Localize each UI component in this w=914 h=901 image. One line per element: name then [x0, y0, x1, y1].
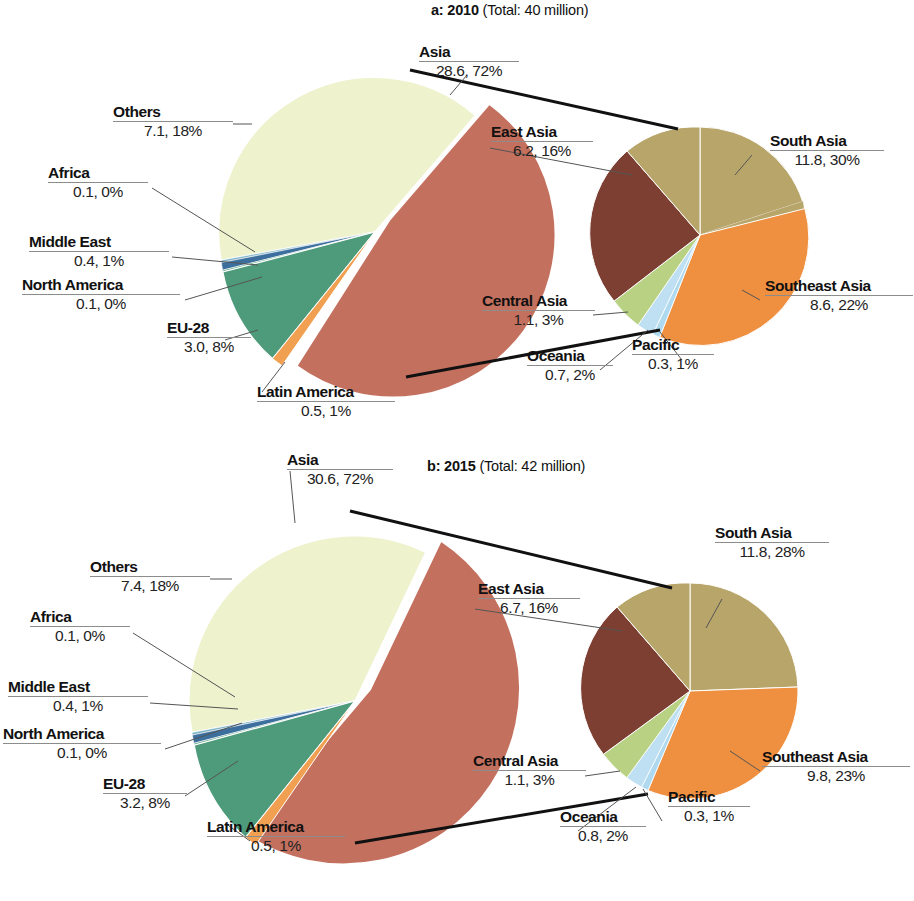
slice-south-asia — [690, 583, 798, 691]
label-oceania-name: Oceania — [527, 348, 613, 364]
label-east-asia-name: East Asia — [491, 124, 593, 140]
label-africa-name: Africa — [30, 609, 130, 625]
label-central-asia-name: Central Asia — [473, 753, 586, 769]
label-middle-east: Middle East 0.4, 1% — [29, 234, 169, 270]
label-central-asia-value: 1.1, 3% — [473, 772, 586, 788]
label-latin-america: Latin America 0.5, 1% — [257, 384, 395, 420]
label-africa-value: 0.1, 0% — [30, 628, 130, 644]
label-others-name: Others — [113, 104, 233, 120]
label-oceania-value: 0.7, 2% — [527, 367, 613, 383]
label-north-america-value: 0.1, 0% — [3, 745, 161, 761]
label-eu28-value: 3.2, 8% — [103, 795, 187, 811]
label-south-asia-value: 11.8, 28% — [715, 544, 829, 560]
label-central-asia-value: 1.1, 3% — [482, 312, 595, 328]
label-asia-name: Asia — [419, 44, 519, 60]
label-middle-east-name: Middle East — [29, 234, 169, 250]
label-southeast-asia-value: 9.8, 23% — [762, 768, 910, 784]
label-middle-east-value: 0.4, 1% — [29, 253, 169, 269]
label-east-asia-name: East Asia — [478, 581, 580, 597]
label-asia: Asia 28.6, 72% — [419, 44, 519, 80]
label-africa: Africa 0.1, 0% — [48, 165, 148, 201]
label-south-asia-name: South Asia — [770, 133, 884, 149]
label-asia: Asia 30.6, 72% — [287, 452, 393, 488]
label-middle-east-value: 0.4, 1% — [8, 698, 148, 714]
label-south-asia: South Asia 11.8, 30% — [770, 133, 884, 169]
label-pacific-name: Pacific — [668, 789, 750, 805]
label-asia-name: Asia — [287, 452, 393, 468]
label-asia-value: 30.6, 72% — [287, 471, 393, 487]
label-north-america: North America 0.1, 0% — [3, 726, 161, 762]
label-africa-value: 0.1, 0% — [48, 184, 148, 200]
label-south-asia: South Asia 11.8, 28% — [715, 525, 829, 561]
label-oceania-value: 0.8, 2% — [560, 828, 646, 844]
label-eu28-name: EU-28 — [167, 320, 251, 336]
label-latin-america-name: Latin America — [207, 819, 345, 835]
chart-panel-2015: b: 2015 (Total: 42 million) — [0, 451, 914, 901]
chart-panel-2010: a: 2010 (Total: 40 million) — [0, 0, 914, 450]
label-eu28: EU-28 3.2, 8% — [103, 776, 187, 812]
label-others: Others 7.1, 18% — [113, 104, 233, 140]
label-east-asia-value: 6.2, 16% — [491, 143, 593, 159]
label-latin-america-value: 0.5, 1% — [257, 403, 395, 419]
label-oceania: Oceania 0.8, 2% — [560, 809, 646, 845]
label-southeast-asia-value: 8.6, 22% — [765, 297, 913, 313]
label-latin-america-name: Latin America — [257, 384, 395, 400]
label-others: Others 7.4, 18% — [90, 559, 210, 595]
label-middle-east: Middle East 0.4, 1% — [8, 679, 148, 715]
label-central-asia: Central Asia 1.1, 3% — [482, 293, 595, 329]
label-southeast-asia: Southeast Asia 9.8, 23% — [762, 749, 910, 785]
label-eu28-value: 3.0, 8% — [167, 339, 251, 355]
label-latin-america-value: 0.5, 1% — [207, 838, 345, 854]
label-southeast-asia-name: Southeast Asia — [765, 278, 913, 294]
label-central-asia-name: Central Asia — [482, 293, 595, 309]
label-pacific: Pacific 0.3, 1% — [632, 337, 714, 373]
label-north-america-value: 0.1, 0% — [22, 296, 180, 312]
label-others-name: Others — [90, 559, 210, 575]
label-central-asia: Central Asia 1.1, 3% — [473, 753, 586, 789]
label-east-asia-value: 6.7, 16% — [478, 600, 580, 616]
label-others-value: 7.4, 18% — [90, 578, 210, 594]
label-north-america: North America 0.1, 0% — [22, 277, 180, 313]
label-middle-east-name: Middle East — [8, 679, 148, 695]
label-eu28-name: EU-28 — [103, 776, 187, 792]
label-africa-name: Africa — [48, 165, 148, 181]
label-north-america-name: North America — [22, 277, 180, 293]
label-oceania-name: Oceania — [560, 809, 646, 825]
label-pacific-value: 0.3, 1% — [668, 808, 750, 824]
label-pacific-value: 0.3, 1% — [632, 356, 714, 372]
panel-b-graphics — [0, 451, 914, 901]
label-southeast-asia-name: Southeast Asia — [762, 749, 910, 765]
label-others-value: 7.1, 18% — [113, 123, 233, 139]
label-pacific: Pacific 0.3, 1% — [668, 789, 750, 825]
label-eu28: EU-28 3.0, 8% — [167, 320, 251, 356]
label-east-asia: East Asia 6.2, 16% — [491, 124, 593, 160]
label-east-asia: East Asia 6.7, 16% — [478, 581, 580, 617]
label-africa: Africa 0.1, 0% — [30, 609, 130, 645]
label-north-america-name: North America — [3, 726, 161, 742]
label-oceania: Oceania 0.7, 2% — [527, 348, 613, 384]
label-southeast-asia: Southeast Asia 8.6, 22% — [765, 278, 913, 314]
label-south-asia-value: 11.8, 30% — [770, 152, 884, 168]
label-asia-value: 28.6, 72% — [419, 63, 519, 79]
label-latin-america: Latin America 0.5, 1% — [207, 819, 345, 855]
label-pacific-name: Pacific — [632, 337, 714, 353]
label-south-asia-name: South Asia — [715, 525, 829, 541]
main-pie-2015 — [189, 536, 520, 865]
